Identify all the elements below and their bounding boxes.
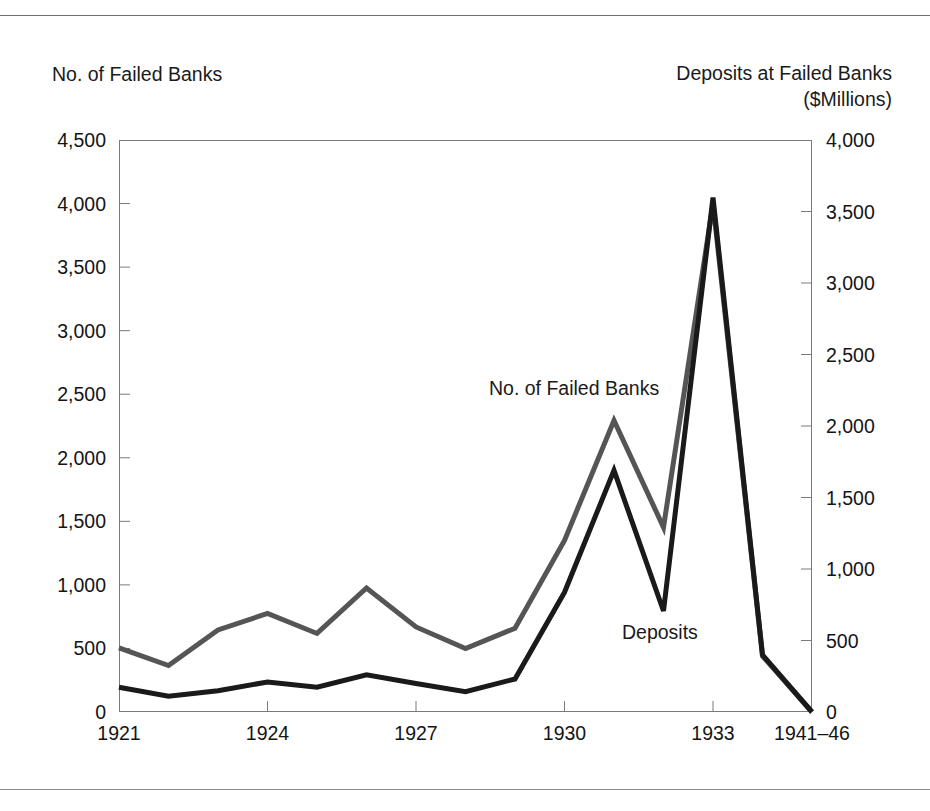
annotation-no-of-failed-banks: No. of Failed Banks <box>489 377 659 400</box>
series-line-no-of-failed-banks <box>119 204 812 712</box>
series-line-deposits <box>119 198 812 712</box>
figure-bank-failures: No. of Failed Banks Deposits at Failed B… <box>0 0 930 811</box>
series-lines <box>0 0 930 811</box>
annotation-deposits: Deposits <box>622 621 698 644</box>
